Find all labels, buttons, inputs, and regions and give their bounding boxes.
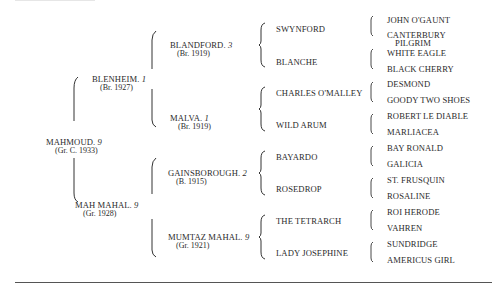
gen4-horse-12: ROI HERODE	[387, 207, 440, 217]
gen4-horse-2: WHITE EAGLE	[387, 48, 446, 58]
bracket-g4-3	[369, 113, 375, 135]
brace-2	[259, 150, 267, 196]
gen3-horse-7: LADY JOSEPHINE	[276, 248, 348, 258]
gen2-info-1: (Br. 1919)	[178, 122, 211, 132]
family-number: 3	[228, 40, 232, 50]
gen4-horse-6: ROBERT LE DIABLE	[387, 111, 468, 121]
bracket-sire-upper	[151, 30, 157, 70]
gen3-horse-4: BAYARDO	[276, 152, 317, 162]
bracket-g4-7	[369, 241, 375, 263]
gen4-horse-15: AMERICUS GIRL	[387, 255, 455, 265]
sire-family-number: 1	[142, 74, 146, 84]
gen3-horse-6: THE TETRARCH	[276, 216, 341, 226]
gen3-horse-2: CHARLES O'MALLEY	[276, 88, 362, 98]
gen4-horse-14: SUNDRIDGE	[387, 239, 438, 249]
gen4-horse-13: VAHREN	[387, 223, 422, 233]
bracket-subject-lower	[73, 157, 79, 203]
bracket-g4-1	[369, 48, 375, 70]
subject-info: (Gr. C. 1933)	[55, 146, 98, 156]
brace-0	[259, 22, 267, 68]
gen3-horse-1: BLANCHE	[276, 57, 317, 67]
gen3-horse-3: WILD ARUM	[276, 120, 327, 130]
brace-3	[259, 214, 267, 260]
gen4-horse-11: ROSALINE	[387, 191, 430, 201]
subject-family-number: 9	[98, 137, 102, 147]
gen4-horse-0: JOHN O'GAUNT	[387, 15, 450, 25]
bracket-g4-0	[369, 15, 375, 37]
gen4-horse-9: GALICIA	[387, 159, 423, 169]
sire-info: (Br. 1927)	[100, 83, 133, 93]
bracket-dam-upper	[151, 157, 157, 195]
gen4-horse-3: BLACK CHERRY	[387, 64, 454, 74]
gen3-horse-5: ROSEDROP	[276, 184, 322, 194]
gen4-horse-10: ST. FRUSQUIN	[387, 175, 445, 185]
bracket-g4-5	[369, 177, 375, 199]
brace-1	[259, 86, 267, 132]
family-number: 9	[245, 232, 249, 242]
bracket-g4-2	[369, 81, 375, 103]
gen4-horse-8: BAY RONALD	[387, 143, 443, 153]
gen4-horse-1-cont: PILGRIM	[395, 38, 431, 48]
gen2-info-2: (B. 1915)	[176, 177, 207, 187]
gen2-info-0: (Br. 1919)	[177, 49, 210, 59]
bottom-rule	[15, 282, 492, 283]
gen4-horse-4: DESMOND	[387, 79, 430, 89]
bracket-g4-6	[369, 209, 375, 231]
dam-family-number: 9	[134, 200, 138, 210]
gen4-horse-7: MARLIACEA	[387, 127, 439, 137]
family-number: 2	[242, 168, 246, 178]
gen2-info-3: (Gr. 1921)	[176, 241, 209, 251]
bracket-sire-lower	[151, 88, 157, 128]
top-edge-remnant	[15, 0, 95, 1]
dam-info: (Gr. 1928)	[83, 209, 116, 219]
bracket-g4-4	[369, 145, 375, 167]
bracket-subject-upper	[73, 76, 79, 122]
gen3-horse-0: SWYNFORD	[276, 24, 325, 34]
bracket-dam-lower	[151, 218, 157, 258]
gen4-horse-5: GOODY TWO SHOES	[387, 95, 470, 105]
